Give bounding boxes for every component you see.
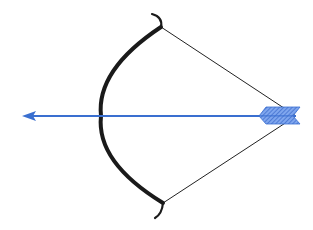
bow-and-arrow-illustration xyxy=(0,0,313,230)
arrow xyxy=(22,107,300,124)
bow-arrow-svg xyxy=(0,0,313,230)
fletching-bottom xyxy=(259,116,300,124)
fletching-top xyxy=(259,107,300,116)
